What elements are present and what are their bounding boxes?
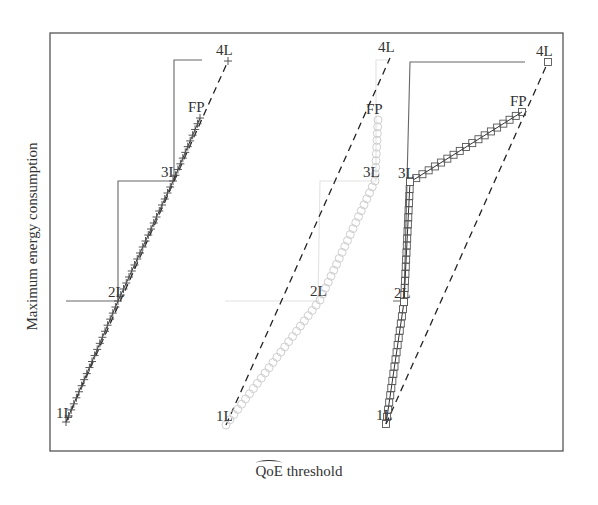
point-label-3l: 3L xyxy=(398,165,415,181)
circle-marker xyxy=(253,379,261,387)
panel-3: 1L2L3LFP4L xyxy=(376,43,553,428)
point-label-3l: 3L xyxy=(363,164,380,180)
point-label-1l: 1L xyxy=(216,408,233,424)
circle-marker xyxy=(246,390,254,398)
plus-marker xyxy=(224,57,232,65)
step-line xyxy=(225,60,390,301)
chart-canvas: 1L2L3LFP4L1L2L3LFP4L1L2L3LFP4L xyxy=(0,0,598,505)
panel-1: 1L2L3LFP4L xyxy=(56,42,233,426)
point-label-fp: FP xyxy=(188,99,205,115)
point-label-1l: 1L xyxy=(376,407,393,423)
circle-marker xyxy=(261,369,269,377)
circle-marker xyxy=(265,364,273,372)
point-label-4l: 4L xyxy=(378,39,395,55)
y-axis-label: Maximum energy consumption xyxy=(24,137,41,337)
circle-marker xyxy=(300,317,308,325)
circle-marker xyxy=(312,301,320,309)
circle-marker xyxy=(285,338,293,346)
circle-marker xyxy=(234,405,242,413)
x-axis-label-rest: threshold xyxy=(283,463,343,479)
panel-2: 1L2L3LFP4L xyxy=(216,39,395,429)
square-marker xyxy=(545,59,552,66)
point-label-fp: FP xyxy=(510,93,527,109)
point-label-1l: 1L xyxy=(56,405,73,421)
plot-panels: 1L2L3LFP4L1L2L3LFP4L1L2L3LFP4L xyxy=(56,39,553,429)
circle-marker xyxy=(277,348,285,356)
point-label-4l: 4L xyxy=(216,42,233,58)
circle-marker xyxy=(257,374,265,382)
circle-marker xyxy=(304,312,312,320)
x-axis-label-hat-term: QoE xyxy=(255,463,283,480)
circle-marker xyxy=(273,353,281,361)
circle-marker xyxy=(242,395,250,403)
circle-marker xyxy=(281,343,289,351)
circle-marker xyxy=(238,400,246,408)
point-label-fp: FP xyxy=(366,101,383,117)
point-label-2l: 2L xyxy=(310,283,327,299)
circle-marker xyxy=(308,306,316,314)
point-label-2l: 2L xyxy=(108,284,125,300)
x-axis-label: QoE threshold xyxy=(0,463,598,480)
point-label-2l: 2L xyxy=(394,285,411,301)
circle-marker xyxy=(289,332,297,340)
point-label-4l: 4L xyxy=(536,43,553,59)
circle-marker xyxy=(269,359,277,367)
circle-marker xyxy=(293,327,301,335)
plot-frame xyxy=(50,33,563,451)
point-label-3l: 3L xyxy=(161,164,178,180)
circle-marker xyxy=(249,385,257,393)
circle-marker xyxy=(296,322,304,330)
